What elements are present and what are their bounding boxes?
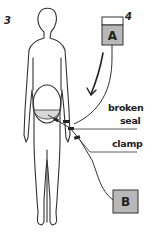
tube-from-a xyxy=(74,45,112,124)
bag-b-label: B xyxy=(113,195,138,209)
step-number-4: 4 xyxy=(125,12,132,22)
broken-seal-label-line1: broken xyxy=(108,103,143,113)
broken-seal-label-line2: seal xyxy=(120,116,141,126)
flow-arrow-icon xyxy=(87,53,103,95)
connector-marks xyxy=(53,117,80,140)
clamp-label: clamp xyxy=(112,139,143,149)
step-number-3: 3 xyxy=(4,16,11,26)
bag-a-label: A xyxy=(102,29,123,43)
